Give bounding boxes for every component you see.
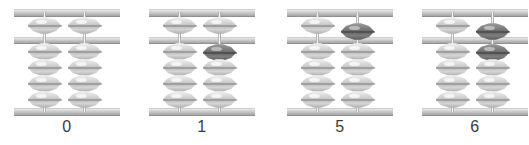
upper-bead-tens-rod-0[interactable] — [436, 17, 470, 34]
bead-rim — [476, 83, 510, 85]
lower-bead-tens-rod-2[interactable] — [301, 75, 335, 92]
bead-rim — [436, 25, 470, 27]
bead-rim — [163, 83, 197, 85]
frame-bar-bottom — [287, 108, 393, 116]
lower-bead-tens-rod-0[interactable] — [163, 43, 197, 60]
lower-bead-tens-rod-0[interactable] — [28, 43, 62, 60]
upper-bead-ones-rod-0[interactable] — [68, 17, 102, 34]
lower-bead-tens-rod-1[interactable] — [436, 59, 470, 76]
bead-rim — [203, 52, 237, 54]
upper-bead-tens-rod-0[interactable] — [163, 17, 197, 34]
abacus-1: 1 — [149, 0, 255, 145]
lower-bead-ones-rod-2[interactable] — [341, 75, 375, 92]
bead-rim — [203, 83, 237, 85]
bead-rim — [163, 99, 197, 101]
bead-rim — [341, 83, 375, 85]
frame-bar-top — [149, 9, 255, 17]
abacus-value-label: 1 — [149, 118, 255, 136]
lower-bead-tens-rod-3[interactable] — [301, 91, 335, 108]
lower-bead-tens-rod-0[interactable] — [436, 43, 470, 60]
bead-rim — [163, 51, 197, 53]
bead-rim — [28, 99, 62, 101]
bead-rim — [341, 99, 375, 101]
lower-bead-ones-rod-3[interactable] — [476, 91, 510, 108]
lower-bead-ones-rod-0[interactable] — [68, 43, 102, 60]
lower-bead-ones-rod-1[interactable] — [203, 59, 237, 76]
bead-rim — [68, 67, 102, 69]
bead-rim — [28, 51, 62, 53]
abacus-6: 6 — [422, 0, 528, 145]
frame-bar-bottom — [422, 108, 528, 116]
bead-rim — [301, 51, 335, 53]
lower-bead-ones-rod-1[interactable] — [341, 59, 375, 76]
upper-bead-ones-rod-0[interactable] — [203, 17, 237, 34]
lower-bead-tens-rod-1[interactable] — [163, 59, 197, 76]
lower-bead-ones-rod-3[interactable] — [341, 91, 375, 108]
bead-rim — [476, 31, 510, 33]
bead-rim — [301, 83, 335, 85]
bead-rim — [28, 83, 62, 85]
bead-rim — [203, 99, 237, 101]
lower-bead-tens-rod-3[interactable] — [436, 91, 470, 108]
bead-rim — [68, 83, 102, 85]
bead-rim — [341, 31, 375, 33]
lower-bead-ones-rod-1[interactable] — [68, 59, 102, 76]
lower-bead-tens-rod-2[interactable] — [163, 75, 197, 92]
lower-bead-tens-rod-2[interactable] — [28, 75, 62, 92]
bead-rim — [341, 67, 375, 69]
upper-bead-tens-rod-0[interactable] — [28, 17, 62, 34]
bead-rim — [163, 67, 197, 69]
bead-rim — [301, 99, 335, 101]
lower-bead-ones-rod-2[interactable] — [68, 75, 102, 92]
upper-bead-tens-rod-0[interactable] — [301, 17, 335, 34]
abacus-5: 5 — [287, 0, 393, 145]
frame-bar-top — [14, 9, 120, 17]
frame-bar-top — [287, 9, 393, 17]
abacus-value-label: 5 — [287, 118, 393, 136]
bead-rim — [203, 25, 237, 27]
bead-rim — [436, 83, 470, 85]
bead-rim — [301, 25, 335, 27]
lower-bead-ones-rod-2[interactable] — [476, 75, 510, 92]
bead-rim — [203, 67, 237, 69]
bead-rim — [476, 52, 510, 54]
lower-bead-ones-rod-1[interactable] — [476, 59, 510, 76]
bead-rim — [163, 25, 197, 27]
bead-rim — [301, 67, 335, 69]
lower-bead-tens-rod-0[interactable] — [301, 43, 335, 60]
upper-bead-ones-rod-0[interactable] — [476, 23, 510, 40]
bead-rim — [436, 67, 470, 69]
abacus-0: 0 — [14, 0, 120, 145]
lower-bead-tens-rod-3[interactable] — [163, 91, 197, 108]
bead-rim — [68, 25, 102, 27]
lower-bead-ones-rod-3[interactable] — [203, 91, 237, 108]
bead-rim — [436, 99, 470, 101]
lower-bead-tens-rod-3[interactable] — [28, 91, 62, 108]
lower-bead-tens-rod-2[interactable] — [436, 75, 470, 92]
abacus-value-label: 6 — [422, 118, 528, 136]
bead-rim — [68, 99, 102, 101]
bead-rim — [341, 51, 375, 53]
bead-rim — [68, 51, 102, 53]
frame-bar-bottom — [149, 108, 255, 116]
upper-bead-ones-rod-0[interactable] — [341, 23, 375, 40]
lower-bead-ones-rod-3[interactable] — [68, 91, 102, 108]
bead-rim — [476, 99, 510, 101]
bead-rim — [476, 67, 510, 69]
lower-bead-tens-rod-1[interactable] — [28, 59, 62, 76]
abacus-value-label: 0 — [14, 118, 120, 136]
lower-bead-tens-rod-1[interactable] — [301, 59, 335, 76]
frame-bar-top — [422, 9, 528, 17]
bead-rim — [28, 67, 62, 69]
frame-bar-bottom — [14, 108, 120, 116]
lower-bead-ones-rod-2[interactable] — [203, 75, 237, 92]
abacus-series: 0156 — [0, 0, 529, 145]
bead-rim — [436, 51, 470, 53]
lower-bead-ones-rod-0[interactable] — [341, 43, 375, 60]
bead-rim — [28, 25, 62, 27]
